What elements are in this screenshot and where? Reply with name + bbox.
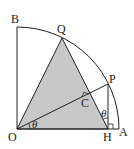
label-H: H [103, 130, 112, 144]
label-A: A [119, 125, 128, 139]
label-P: P [109, 72, 116, 86]
label-O: O [8, 130, 17, 144]
label-C: C [81, 96, 89, 110]
shaded-triangle-OQH [17, 38, 108, 129]
geometry-diagram: B Q P C O H A θ θ [0, 0, 134, 149]
label-Q: Q [57, 22, 66, 36]
label-theta-H: θ [101, 107, 107, 119]
label-theta-O: θ [32, 118, 38, 130]
label-B: B [11, 12, 19, 26]
right-angle-mark-H [108, 124, 113, 129]
